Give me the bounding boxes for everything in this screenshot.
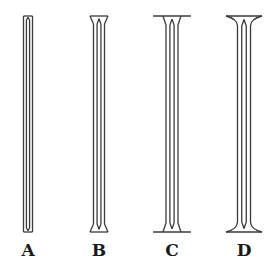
column-b xyxy=(90,16,108,232)
column-d xyxy=(226,16,262,232)
column-c xyxy=(153,16,191,232)
column-a xyxy=(24,16,33,232)
label-a: A xyxy=(16,240,40,260)
label-d: D xyxy=(232,240,256,260)
label-c: C xyxy=(160,240,184,260)
column-diagram xyxy=(0,0,274,266)
label-b: B xyxy=(87,240,111,260)
